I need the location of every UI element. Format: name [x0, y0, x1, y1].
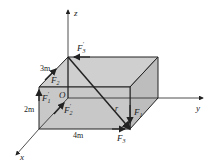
force-label-F3-prime: F3′	[76, 41, 86, 54]
y-axis-label: y	[195, 103, 200, 113]
force-label-F3: F3	[116, 133, 126, 144]
box-force-diagram: z y x O r F3′ F2 F1′ F2′ F1 F3 3m 2m 4m	[0, 0, 212, 167]
z-axis-label: z	[73, 8, 78, 18]
dimension-depth: 3m	[40, 64, 51, 73]
dimension-width: 4m	[73, 131, 84, 140]
dimension-height: 2m	[24, 105, 35, 114]
origin-label: O	[59, 90, 66, 100]
x-axis-label: x	[19, 152, 24, 162]
